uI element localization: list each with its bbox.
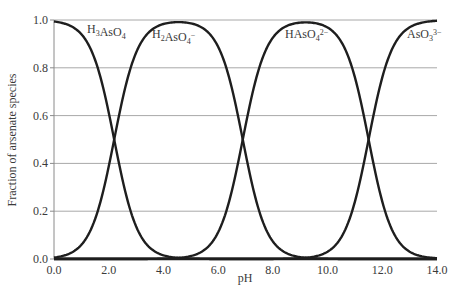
curve-AsO33− bbox=[54, 21, 437, 259]
y-tick-label: 0.6 bbox=[33, 109, 48, 123]
species-label: H2AsO4− bbox=[152, 27, 196, 46]
gridlines bbox=[54, 20, 437, 211]
y-tick-label: 0.2 bbox=[33, 204, 48, 218]
arsenate-speciation-chart: 0.02.04.06.08.010.012.014.0 0.00.20.40.6… bbox=[0, 0, 458, 302]
y-axis-label: Fraction of arsenate species bbox=[5, 73, 19, 206]
curve-H2AsO4− bbox=[54, 22, 437, 259]
x-tick-label: 8.0 bbox=[265, 263, 280, 277]
y-tick-label: 0.0 bbox=[33, 252, 48, 266]
species-curves bbox=[54, 21, 437, 259]
species-label: HAsO42− bbox=[285, 27, 329, 43]
curve-H3AsO4 bbox=[54, 22, 437, 260]
y-tick-label: 1.0 bbox=[33, 13, 48, 27]
species-label: H3AsO4 bbox=[87, 22, 126, 41]
x-tick-label: 6.0 bbox=[211, 263, 226, 277]
x-axis-label: pH bbox=[238, 271, 253, 285]
y-tick-labels: 0.00.20.40.60.81.0 bbox=[33, 13, 54, 266]
species-label: AsO33− bbox=[407, 27, 442, 43]
y-tick-label: 0.4 bbox=[33, 156, 48, 170]
x-tick-label: 2.0 bbox=[101, 263, 116, 277]
x-tick-label: 12.0 bbox=[372, 263, 393, 277]
x-tick-label: 10.0 bbox=[317, 263, 338, 277]
curve-HAsO42− bbox=[54, 22, 437, 259]
axes bbox=[54, 20, 437, 259]
x-tick-label: 4.0 bbox=[156, 263, 171, 277]
x-tick-label: 14.0 bbox=[427, 263, 448, 277]
x-tick-label: 0.0 bbox=[47, 263, 62, 277]
y-tick-label: 0.8 bbox=[33, 61, 48, 75]
